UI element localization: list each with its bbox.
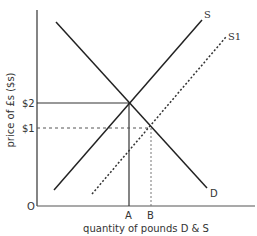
supply-curve-s1 — [92, 37, 226, 194]
demand-curve — [56, 22, 207, 188]
x-tick-b: B — [147, 210, 154, 221]
supply-demand-chart: S S1 D $2 $1 O A B quantity of pounds D … — [0, 0, 257, 236]
x-axis-title: quantity of pounds D & S — [83, 223, 209, 234]
supply-curve — [54, 20, 202, 190]
y-tick-1: $1 — [22, 123, 35, 134]
label-s: S — [204, 9, 211, 20]
label-s1: S1 — [228, 31, 241, 42]
y-axis-title: price of £s ($s) — [5, 72, 16, 147]
origin-label: O — [27, 201, 35, 212]
x-tick-a: A — [125, 210, 132, 221]
y-tick-2: $2 — [22, 98, 35, 109]
label-d: D — [210, 188, 218, 199]
